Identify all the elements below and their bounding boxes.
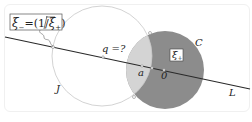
intersection-top xyxy=(149,32,152,35)
zero-label: 0 xyxy=(161,70,168,81)
circle-c-label: C xyxy=(195,37,203,48)
intersection-bottom xyxy=(133,96,136,99)
q-label: q =? xyxy=(102,43,126,54)
line-l xyxy=(5,37,250,89)
a-label: a xyxy=(138,67,144,78)
line-l-label: L xyxy=(228,87,236,98)
diagram-canvas: ξ−=(1/ξ+) ξ+ q =? a 0 C J L xyxy=(0,0,252,122)
circle-j-label: J xyxy=(54,83,61,94)
point-marker-mid xyxy=(151,67,153,69)
point-marker-q xyxy=(102,56,104,58)
